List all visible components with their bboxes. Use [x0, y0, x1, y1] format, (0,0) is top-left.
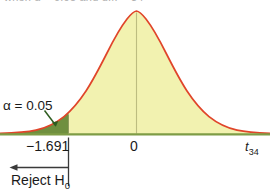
distribution-plot [0, 0, 270, 191]
reject-null-label: Reject H0 [11, 173, 70, 190]
axis-variable-subscript: 34 [249, 147, 259, 157]
t-distribution-figure: when α = 0.05 and d.f. = 34 [0, 0, 270, 191]
reject-null-text: Reject H [11, 172, 65, 188]
critical-value-label: −1.691 [26, 139, 69, 153]
reject-null-subscript: 0 [65, 180, 70, 191]
axis-variable-label: t34 [245, 140, 259, 157]
alpha-significance-label: α = 0.05 [3, 99, 52, 113]
fail-to-reject-area [0, 11, 270, 134]
center-zero-label: 0 [130, 139, 138, 153]
